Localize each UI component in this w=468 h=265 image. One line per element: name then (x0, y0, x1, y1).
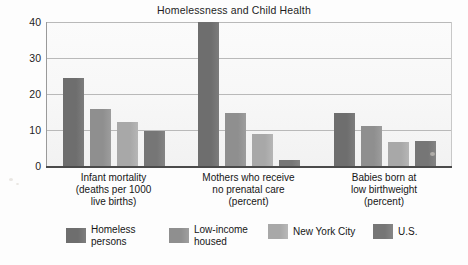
legend-label-low-income-housed: Low-income housed (194, 224, 248, 247)
legend-item-new-york-city[interactable]: New York City (268, 224, 355, 239)
bar (388, 142, 409, 167)
legend-label-new-york-city: New York City (293, 226, 355, 238)
legend-swatch-low-income-housed (169, 228, 189, 243)
legend-item-us[interactable]: U.S. (373, 224, 417, 239)
y-tick-label-40: 40 (8, 17, 41, 28)
bar (334, 113, 355, 167)
group-label-infant-mortality: Infant mortality (deaths per 1000 live b… (46, 172, 181, 209)
legend-label-us: U.S. (398, 226, 417, 238)
legend-swatch-homeless-persons (66, 228, 86, 243)
bar (361, 126, 382, 167)
y-tick-label-10: 10 (8, 125, 41, 136)
legend-label-homeless-persons: Homeless persons (91, 224, 135, 247)
bar (198, 22, 219, 167)
bar (144, 131, 165, 167)
bar (117, 122, 138, 167)
legend-item-homeless-persons[interactable]: Homeless persons (66, 224, 135, 247)
bar (90, 109, 111, 167)
legend-item-low-income-housed[interactable]: Low-income housed (169, 224, 248, 247)
y-tick-label-20: 20 (8, 89, 41, 100)
group-label-low-birthweight: Babies born at low birthweight (percent) (316, 172, 452, 209)
bars-layer (46, 22, 452, 167)
chart-title: Homelessness and Child Health (0, 4, 468, 16)
y-tick-label-0: 0 (8, 161, 41, 172)
bar (252, 134, 273, 167)
bar (225, 113, 246, 167)
scan-speckle (16, 183, 19, 185)
x-axis-line (46, 166, 452, 168)
legend-swatch-new-york-city (268, 224, 288, 239)
chart-figure: Homelessness and Child Health 40 30 20 1… (0, 0, 468, 265)
bar (63, 78, 84, 167)
scan-speckle (430, 152, 435, 156)
scan-speckle (9, 178, 13, 181)
chart-legend: Homeless persons Low-income housed New Y… (46, 224, 452, 258)
y-tick-label-30: 30 (8, 53, 41, 64)
legend-swatch-us (373, 224, 393, 239)
scan-speckle (247, 190, 250, 192)
